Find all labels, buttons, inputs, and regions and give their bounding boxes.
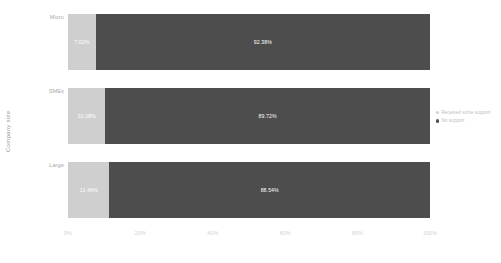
bar-track: 7.62% 92.38% bbox=[68, 14, 430, 70]
legend-swatch-icon bbox=[436, 119, 439, 122]
bar-segment-value: 89.72% bbox=[258, 113, 276, 119]
bar-segment-value: 92.38% bbox=[254, 39, 272, 45]
x-tick-label: 40% bbox=[207, 230, 218, 236]
legend-item-received-some-support[interactable]: Received some support bbox=[436, 110, 500, 115]
bar-segment-received-some-support[interactable]: 11.46% bbox=[68, 162, 109, 218]
y-axis-title: Company size bbox=[0, 0, 14, 263]
x-tick-label: 0% bbox=[64, 230, 72, 236]
bar-segment-no-support[interactable]: 88.54% bbox=[109, 162, 430, 218]
legend-swatch-icon bbox=[436, 111, 439, 114]
x-tick-label: 60% bbox=[280, 230, 291, 236]
bar-track: 11.46% 88.54% bbox=[68, 162, 430, 218]
category-label: SMEs bbox=[4, 88, 64, 94]
bar-segment-value: 7.62% bbox=[74, 39, 89, 45]
bar-row: Micro 7.62% 92.38% bbox=[68, 14, 430, 70]
bar-segment-no-support[interactable]: 89.72% bbox=[105, 88, 430, 144]
bar-segment-value: 88.54% bbox=[261, 187, 279, 193]
bar-segment-received-some-support[interactable]: 7.62% bbox=[68, 14, 96, 70]
plot-area: Micro 7.62% 92.38% SMEs 10.28% 89.72% bbox=[68, 12, 430, 224]
legend-label: Received some support bbox=[441, 110, 490, 115]
bar-segment-no-support[interactable]: 92.38% bbox=[96, 14, 430, 70]
legend: Received some support No support bbox=[436, 110, 500, 127]
bar-segment-value: 11.46% bbox=[80, 187, 98, 193]
legend-label: No support bbox=[441, 118, 464, 123]
x-tick-label: 100% bbox=[423, 230, 437, 236]
chart-figure: Company size Micro 7.62% 92.38% SMEs 10.… bbox=[0, 0, 501, 263]
x-tick-label: 20% bbox=[135, 230, 146, 236]
legend-item-no-support[interactable]: No support bbox=[436, 118, 500, 123]
bar-track: 10.28% 89.72% bbox=[68, 88, 430, 144]
category-label: Large bbox=[4, 162, 64, 168]
bar-row: SMEs 10.28% 89.72% bbox=[68, 88, 430, 144]
bar-row: Large 11.46% 88.54% bbox=[68, 162, 430, 218]
category-label: Micro bbox=[4, 14, 64, 20]
x-tick-label: 80% bbox=[352, 230, 363, 236]
bar-segment-value: 10.28% bbox=[78, 113, 96, 119]
bar-segment-received-some-support[interactable]: 10.28% bbox=[68, 88, 105, 144]
